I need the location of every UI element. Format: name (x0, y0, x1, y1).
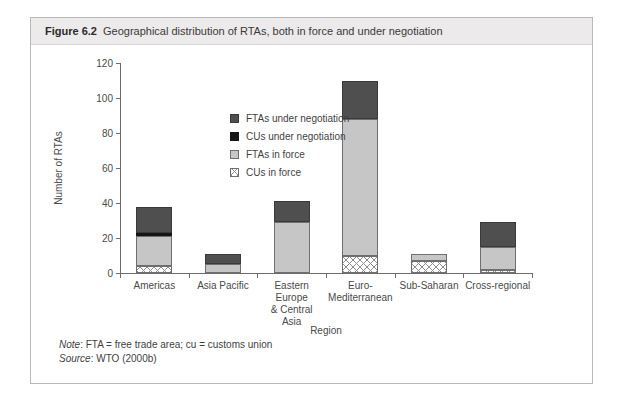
legend-label: CUs under negotiation (246, 131, 346, 142)
x-axis-label-line: Euro- (326, 280, 395, 292)
bar-segment-ftas-in-force (136, 236, 172, 266)
bar-group (480, 222, 516, 273)
x-axis-label-cross-regional: Cross-regional (463, 280, 532, 292)
legend-item: FTAs under negotiation (230, 113, 349, 124)
figure-number-label: Figure 6.2 (45, 25, 97, 37)
x-axis-label-asia-pacific: Asia Pacific (189, 280, 258, 292)
bar-segment-ftas-under-negotiation (205, 254, 241, 265)
x-tick-mark (189, 273, 190, 278)
x-tick-mark (257, 273, 258, 278)
x-axis-label-line: & Central (257, 304, 326, 316)
legend-label: FTAs in force (246, 149, 305, 160)
chart-plot-area: Number of RTAs 020406080100120 AmericasA… (120, 63, 532, 273)
x-axis-label-line: Americas (120, 280, 189, 292)
ftas-in-force-swatch (230, 150, 239, 159)
legend-label: FTAs under negotiation (246, 113, 349, 124)
x-axis-label-line: Sub-Saharan (395, 280, 464, 292)
bar-segment-ftas-in-force (205, 264, 241, 273)
x-axis-label-line: Eastern Europe (257, 280, 326, 304)
figure-title: Geographical distribution of RTAs, both … (103, 25, 443, 37)
x-axis-label-sub-saharan: Sub-Saharan (395, 280, 464, 292)
bar-segment-ftas-in-force (411, 254, 447, 261)
chart-legend: FTAs under negotiationCUs under negotiat… (230, 113, 349, 185)
bar-segment-cus-in-force (342, 256, 378, 274)
bar-segment-ftas-under-negotiation (274, 201, 310, 222)
x-axis-label-line: Mediterranean (326, 292, 395, 304)
note-line: Note: FTA = free trade area; cu = custom… (59, 338, 272, 352)
x-axis-label-americas: Americas (120, 280, 189, 292)
y-axis-title: Number of RTAs (53, 131, 64, 205)
legend-item: CUs in force (230, 167, 349, 178)
x-tick-mark (120, 273, 121, 278)
fta-under-negotiation-swatch (230, 114, 239, 123)
figure-footnotes: Note: FTA = free trade area; cu = custom… (59, 338, 272, 366)
x-tick-mark (463, 273, 464, 278)
bar-segment-cus-in-force (411, 261, 447, 273)
x-tick-mark (326, 273, 327, 278)
x-axis-title: Region (310, 325, 342, 336)
legend-item: FTAs in force (230, 149, 349, 160)
note-label: Note (59, 339, 80, 350)
note-text: : FTA = free trade area; cu = customs un… (80, 339, 272, 350)
bar-group (136, 207, 172, 274)
x-axis-label-line: Cross-regional (463, 280, 532, 292)
bar-segment-cus-in-force (480, 270, 516, 274)
bar-segment-ftas-in-force (480, 247, 516, 270)
figure-card: Figure 6.2 Geographical distribution of … (30, 17, 593, 384)
cus-under-negotiation-swatch (230, 132, 239, 141)
x-tick-mark (532, 273, 533, 278)
x-axis-label-line: Asia Pacific (189, 280, 258, 292)
source-label: Source (59, 353, 91, 364)
legend-label: CUs in force (246, 167, 301, 178)
bar-segment-cus-in-force (136, 266, 172, 273)
x-axis-label-eastern-europe-central-asia: Eastern Europe& CentralAsia (257, 280, 326, 328)
bar-segment-ftas-under-negotiation (136, 207, 172, 233)
bar-segment-ftas-under-negotiation (480, 222, 516, 247)
bar-group (411, 254, 447, 273)
bar-group (205, 254, 241, 273)
figure-title-bar: Figure 6.2 Geographical distribution of … (31, 18, 592, 45)
bar-group (274, 201, 310, 273)
x-axis-label-euro-mediterranean: Euro-Mediterranean (326, 280, 395, 304)
legend-item: CUs under negotiation (230, 131, 349, 142)
cus-in-force-swatch (230, 168, 239, 177)
source-text: : WTO (2000b) (91, 353, 157, 364)
bar-segment-ftas-in-force (274, 222, 310, 273)
source-line: Source: WTO (2000b) (59, 352, 272, 366)
x-tick-mark (395, 273, 396, 278)
